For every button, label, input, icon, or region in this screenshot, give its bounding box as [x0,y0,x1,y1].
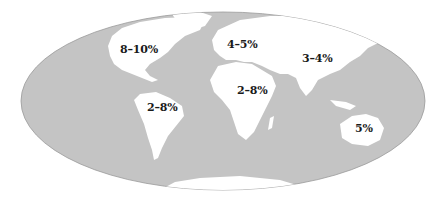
label-north-america: 8–10% [120,43,158,56]
label-south-america: 2–8% [147,101,177,114]
label-australia: 5% [355,122,373,135]
label-europe: 4–5% [227,38,257,51]
label-africa: 2–8% [237,84,267,97]
label-asia: 3–4% [302,52,332,65]
world-map [0,0,445,205]
